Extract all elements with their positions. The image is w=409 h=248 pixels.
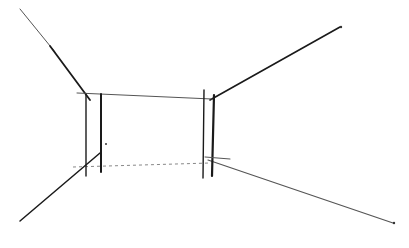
right-vertical-line-1: [203, 90, 204, 178]
stray-dot: [105, 143, 107, 145]
line-end-dot: [340, 26, 342, 28]
perspective-room-sketch: [0, 0, 409, 248]
upper-left-diagonal-line-bold: [50, 46, 90, 100]
back-wall-bottom-line: [73, 163, 210, 167]
upper-right-diagonal-line: [210, 27, 340, 100]
right-bottom-tick-line: [205, 157, 230, 159]
back-wall-top-line: [77, 93, 212, 99]
line-end-dot: [393, 222, 395, 224]
right-vertical-line-2: [212, 95, 214, 176]
lower-left-diagonal-line: [20, 153, 100, 221]
lower-right-diagonal-line: [208, 160, 393, 223]
sketch-canvas: [0, 0, 409, 248]
